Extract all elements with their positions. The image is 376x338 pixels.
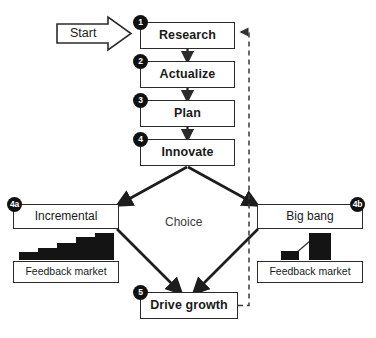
incremental-feedback-chart [19, 232, 115, 260]
step-label-actualize: Actualize [160, 68, 216, 81]
feedback-loop-dashed-path [238, 32, 249, 306]
bar-incremental-2 [38, 248, 57, 260]
bar-bigbang-1 [281, 251, 299, 260]
connector-innovate-bigbang [188, 167, 257, 205]
branch-badge-4b: 4b [350, 197, 365, 212]
diagram-canvas: Start Research 1 Actualize 2 Plan 3 Inno… [0, 0, 376, 338]
start-label: Start [70, 26, 96, 40]
step-box-plan[interactable]: Plan [140, 100, 235, 127]
step-label-drive-growth: Drive growth [150, 299, 228, 312]
branch-label-incremental: Incremental [35, 210, 98, 223]
feedback-label-incremental: Feedback market [25, 266, 106, 277]
step-badge-1: 1 [133, 15, 148, 30]
step-box-actualize[interactable]: Actualize [140, 61, 235, 88]
step-label-plan: Plan [174, 107, 201, 120]
bar-bigbang-2 [309, 233, 331, 260]
decision-label-choice: Choice [165, 215, 202, 229]
branch-badge-4a: 4a [7, 197, 22, 212]
step-badge-4: 4 [133, 132, 148, 147]
step-label-research: Research [159, 29, 216, 42]
feedback-label-bigbang: Feedback market [269, 266, 350, 277]
connector-layer [0, 0, 376, 338]
branch-box-incremental[interactable]: Incremental [13, 204, 119, 229]
bar-incremental-1 [19, 252, 38, 260]
feedback-box-bigbang[interactable]: Feedback market [257, 261, 363, 283]
step-box-drive-growth[interactable]: Drive growth [140, 292, 238, 319]
step-box-research[interactable]: Research [140, 22, 235, 49]
connector-incremental-drivegrowth [117, 229, 181, 293]
branch-label-bigbang: Big bang [286, 210, 333, 223]
bar-incremental-4 [76, 237, 95, 260]
bigbang-feedback-chart [281, 232, 339, 260]
feedback-box-incremental[interactable]: Feedback market [13, 261, 119, 283]
bar-incremental-3 [57, 243, 76, 260]
bar-incremental-5 [95, 233, 114, 260]
branch-box-bigbang[interactable]: Big bang [257, 204, 363, 229]
connector-innovate-incremental [118, 167, 187, 205]
step-badge-5: 5 [133, 285, 148, 300]
step-badge-3: 3 [133, 93, 148, 108]
step-label-innovate: Innovate [161, 146, 213, 159]
step-box-innovate[interactable]: Innovate [140, 139, 235, 166]
step-badge-2: 2 [133, 54, 148, 69]
